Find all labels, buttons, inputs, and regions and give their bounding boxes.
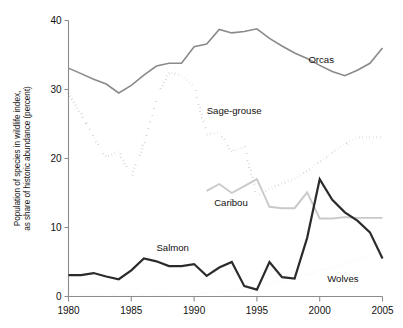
y-tick-label: 30 [50,84,62,95]
series-label-salmon: Salmon [156,242,189,253]
series-label-orcas: Orcas [308,54,334,65]
x-tick-label: 1990 [183,305,206,316]
chart-container: Population of species in wildlife index,… [0,0,403,328]
series-label-wolves: Wolves [327,273,358,284]
series-label-sage-grouse: Sage-grouse [207,105,262,116]
axis-title-group: Population of species in wildlife index,… [12,86,33,231]
y-axis: 010203040 [50,15,68,302]
y-axis-title-line-1: Population of species in wildlife index, [12,91,22,226]
x-tick-label: 2000 [309,305,332,316]
y-tick-label: 20 [50,153,62,164]
x-tick-label: 1980 [57,305,80,316]
series-line-orcas [69,29,383,93]
y-tick-label: 40 [50,15,62,26]
y-axis-title-line-2: as share of historic abundance (percent) [22,86,32,231]
x-tick-label: 1995 [246,305,269,316]
x-tick-label: 1985 [120,305,143,316]
line-chart: Population of species in wildlife index,… [0,0,403,328]
x-tick-label: 2005 [371,305,394,316]
y-tick-label: 0 [56,291,62,302]
x-axis: 198019851990199520002005 [57,297,394,316]
y-tick-label: 10 [50,222,62,233]
series-label-group: OrcasSage-grouseCaribouSalmonWolves [156,54,358,284]
series-label-caribou: Caribou [214,197,248,208]
series-group [69,29,383,295]
